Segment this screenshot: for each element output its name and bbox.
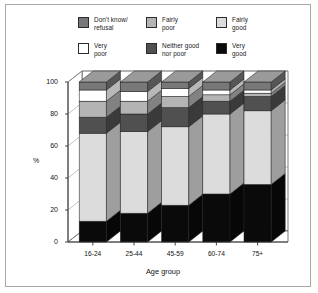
x-tick-label: 75+: [235, 250, 281, 257]
y-tick-label: 0: [30, 238, 58, 245]
x-axis-label: Age group: [0, 267, 318, 276]
y-tick-label: 80: [30, 110, 58, 117]
x-tick-label: 25-44: [111, 250, 157, 257]
x-tick-label: 45-59: [152, 250, 198, 257]
y-tick-label: 100: [30, 78, 58, 85]
y-tick-label: 20: [30, 206, 58, 213]
x-tick-label: 16-24: [70, 250, 116, 257]
y-axis-label: %: [33, 157, 39, 164]
chart-screenshot: Don't know/ refusal Fairly poor Fairly g…: [0, 0, 318, 293]
x-tick-label: 60-74: [193, 250, 239, 257]
y-tick-label: 60: [30, 142, 58, 149]
x-axis-label-text: Age group: [146, 267, 180, 276]
y-tick-label: 40: [30, 174, 58, 181]
y-axis-ticklabels: 020406080100: [14, 0, 58, 293]
